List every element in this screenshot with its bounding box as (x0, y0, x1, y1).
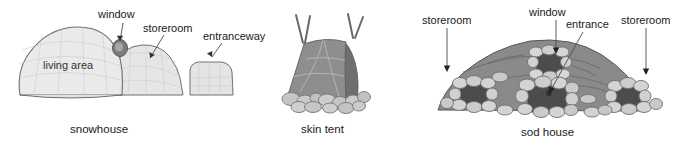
label-window-sod: window (528, 6, 566, 18)
label-entranceway: entranceway (203, 30, 266, 42)
panel-snowhouse: window storeroom entranceway living area… (19, 8, 266, 135)
sod-storeroom-left-opening (441, 76, 499, 113)
sod-storeroom-right-opening (605, 78, 663, 115)
caption-snowhouse: snowhouse (70, 123, 128, 135)
label-storeroom-right: storeroom (621, 14, 671, 26)
label-entrance: entrance (566, 18, 609, 30)
snowhouse-storeroom-shape (118, 44, 183, 95)
label-storeroom-left: storeroom (422, 14, 472, 26)
sod-entrance-opening (516, 76, 580, 118)
label-storeroom: storeroom (143, 22, 193, 34)
label-living-area: living area (43, 59, 94, 71)
snowhouse-entranceway-shape (190, 62, 233, 95)
tent-poles (296, 14, 363, 43)
panel-skin-tent: skin tent (282, 14, 371, 135)
label-window: window (97, 8, 135, 20)
sod-window-opening (528, 45, 572, 81)
caption-skin-tent: skin tent (301, 123, 345, 135)
snowhouse-window-opening (113, 40, 128, 57)
panel-sod-house: storeroom window entrance storeroom sod … (422, 6, 671, 138)
caption-sod-house: sod house (521, 126, 574, 138)
dwelling-types-diagram: window storeroom entranceway living area… (0, 0, 689, 149)
